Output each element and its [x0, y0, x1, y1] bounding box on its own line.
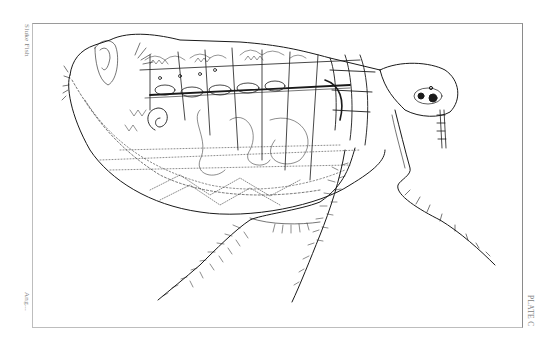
spiral-organ	[148, 108, 167, 130]
front-leg	[392, 110, 495, 265]
head	[380, 63, 458, 116]
thorax	[325, 55, 375, 145]
hind-leg	[158, 148, 355, 300]
ventral-plates	[150, 175, 300, 205]
posterior-setae	[62, 41, 153, 100]
internal-structures	[100, 110, 360, 175]
middle-leg	[292, 150, 348, 302]
tergites	[140, 48, 360, 180]
flea-illustration	[0, 0, 551, 345]
